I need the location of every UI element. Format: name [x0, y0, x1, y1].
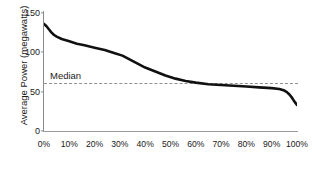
plot-area	[44, 12, 297, 131]
x-tick-label-50pct: 50%	[162, 139, 179, 149]
y-tick-label-50: 50	[14, 87, 40, 97]
x-tick-label-80pct: 80%	[238, 139, 255, 149]
chart-container: Average Power (megawatts) 150 100 50 0 M…	[0, 0, 312, 174]
y-tick-label-0: 0	[14, 126, 40, 136]
series-line-average-power	[44, 24, 297, 105]
x-tick-label-20pct: 20%	[86, 139, 103, 149]
x-axis-line	[43, 131, 298, 132]
x-tick-label-90pct: 90%	[263, 139, 280, 149]
y-tick-labels: 150 100 50 0	[12, 0, 40, 174]
y-tick-label-150: 150	[14, 8, 40, 18]
y-tick-label-100: 100	[14, 47, 40, 57]
x-tick-label-0pct: 0%	[38, 139, 50, 149]
x-tick-label-40pct: 40%	[137, 139, 154, 149]
x-tick-label-60pct: 60%	[187, 139, 204, 149]
x-tick-label-30pct: 30%	[111, 139, 128, 149]
x-tick-label-100pct: 100%	[286, 139, 308, 149]
load-duration-curve	[44, 12, 297, 131]
x-tick-label-10pct: 10%	[61, 139, 78, 149]
x-tick-label-70pct: 70%	[212, 139, 229, 149]
